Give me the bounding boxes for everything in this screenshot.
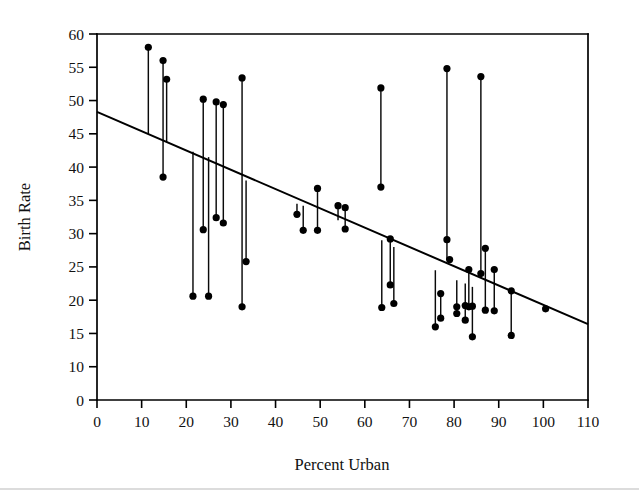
data-point — [300, 227, 307, 234]
data-point — [390, 300, 397, 307]
data-point — [377, 183, 384, 190]
x-tick-label: 20 — [179, 413, 195, 430]
y-axis-title: Birth Rate — [15, 183, 34, 251]
data-point — [491, 307, 498, 314]
data-point — [491, 266, 498, 273]
data-point — [387, 281, 394, 288]
data-point — [220, 101, 227, 108]
data-point — [542, 305, 549, 312]
data-point — [446, 256, 453, 263]
x-tick-label: 0 — [93, 413, 101, 430]
data-point — [342, 204, 349, 211]
data-point — [242, 258, 249, 265]
x-tick-label: 50 — [312, 413, 328, 430]
x-tick-label: 90 — [491, 413, 507, 430]
data-point — [377, 84, 384, 91]
x-tick-label: 30 — [223, 413, 239, 430]
data-point — [220, 219, 227, 226]
data-point — [213, 98, 220, 105]
data-point — [469, 333, 476, 340]
data-point — [482, 307, 489, 314]
y-tick-label: 30 — [69, 225, 85, 242]
x-tick-label: 10 — [134, 413, 150, 430]
data-point — [163, 76, 170, 83]
data-point — [387, 235, 394, 242]
data-point — [469, 303, 476, 310]
data-point — [437, 290, 444, 297]
data-point — [145, 44, 152, 51]
data-point — [213, 214, 220, 221]
data-point — [443, 236, 450, 243]
y-tick-label: 55 — [69, 59, 85, 76]
data-point — [200, 96, 207, 103]
data-point — [293, 211, 300, 218]
data-point — [462, 317, 469, 324]
data-point — [465, 266, 472, 273]
figure-container: 01015202530354045505560 0102030405060708… — [0, 0, 639, 492]
y-tick-label: 15 — [69, 325, 85, 342]
x-tick-label: 40 — [268, 413, 284, 430]
y-tick-label: 40 — [69, 159, 85, 176]
y-tick-label: 45 — [69, 125, 85, 142]
y-tick-label: 35 — [69, 192, 85, 209]
data-point — [342, 225, 349, 232]
y-tick-label: 50 — [69, 92, 85, 109]
x-tick-label: 80 — [446, 413, 462, 430]
data-point — [314, 227, 321, 234]
data-point — [334, 202, 341, 209]
data-point — [432, 323, 439, 330]
data-point — [189, 293, 196, 300]
data-point — [477, 270, 484, 277]
y-tick-label: 20 — [69, 292, 85, 309]
data-point — [453, 303, 460, 310]
data-point — [200, 226, 207, 233]
data-point — [477, 73, 484, 80]
data-point — [205, 293, 212, 300]
data-point — [159, 57, 166, 64]
data-point — [437, 315, 444, 322]
data-point — [453, 310, 460, 317]
y-tick-label: 0 — [76, 392, 84, 409]
data-point — [378, 304, 385, 311]
data-point — [314, 185, 321, 192]
data-point — [238, 303, 245, 310]
y-tick-label: 10 — [69, 358, 85, 375]
data-point — [443, 65, 450, 72]
data-point — [159, 173, 166, 180]
y-tick-label: 60 — [69, 26, 85, 43]
y-tick-label: 25 — [69, 258, 85, 275]
data-point — [482, 245, 489, 252]
data-point — [508, 287, 515, 294]
data-point — [238, 74, 245, 81]
x-tick-label: 70 — [402, 413, 418, 430]
data-point — [508, 332, 515, 339]
x-tick-label: 60 — [357, 413, 373, 430]
x-axis-title: Percent Urban — [295, 455, 390, 474]
x-tick-label: 110 — [577, 413, 600, 430]
x-tick-label: 100 — [532, 413, 556, 430]
scatter-plot: 01015202530354045505560 0102030405060708… — [0, 0, 639, 492]
